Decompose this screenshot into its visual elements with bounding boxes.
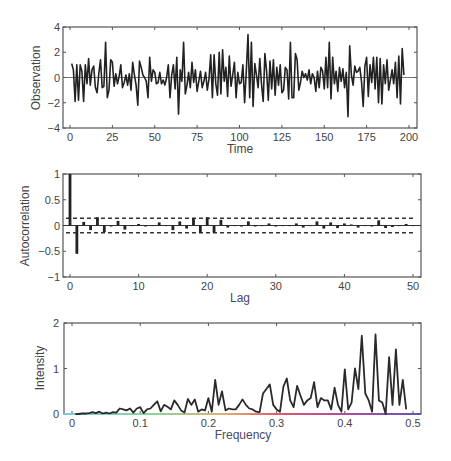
- acf-bar: [364, 226, 367, 227]
- acf-bar: [103, 226, 106, 233]
- x-tick-label: 10: [132, 280, 144, 292]
- x-tick-label: 50: [407, 280, 419, 292]
- periodogram-y-ticks: 012: [53, 317, 421, 420]
- acf-bar: [240, 226, 243, 227]
- acf-bar: [268, 223, 271, 225]
- acf-bar: [384, 226, 387, 229]
- acf-y-axis-label: Autocorrelation: [18, 186, 32, 267]
- acf-bar: [96, 217, 99, 225]
- y-tick-label: 0: [53, 408, 59, 420]
- x-tick-label: 75: [191, 131, 203, 143]
- y-tick-label: 2: [53, 317, 59, 329]
- y-tick-label: 0.5: [45, 194, 60, 206]
- periodogram-x-axis-label: Frequency: [215, 428, 272, 442]
- acf-bar: [220, 220, 223, 226]
- y-tick-label: 2: [54, 46, 60, 58]
- acf-bar: [165, 226, 168, 227]
- acf-bar: [295, 223, 298, 225]
- acf-bar: [206, 217, 209, 225]
- acf-bar: [329, 222, 332, 225]
- acf-bar: [226, 226, 229, 228]
- x-tick-label: 30: [270, 280, 282, 292]
- acf-bar: [178, 221, 181, 225]
- figure: −4−2024 0255075100125150175200 Time Obse…: [0, 0, 451, 461]
- periodogram-panel: 012 00.10.20.30.40.5 Frequency Intensity: [33, 317, 421, 442]
- acf-bar: [185, 226, 188, 229]
- acf-bar: [69, 174, 72, 226]
- x-tick-label: 40: [338, 280, 350, 292]
- y-tick-label: −4: [47, 122, 60, 134]
- acf-bar: [213, 226, 216, 233]
- y-tick-label: −0.5: [38, 245, 60, 257]
- x-tick-label: 125: [273, 131, 291, 143]
- acf-bar: [391, 226, 394, 228]
- y-tick-label: 1: [54, 168, 60, 180]
- y-tick-label: −2: [47, 97, 60, 109]
- acf-bar: [233, 226, 236, 227]
- y-tick-label: 0: [54, 72, 60, 84]
- periodogram-series-line: [75, 334, 406, 414]
- acf-bar: [322, 226, 325, 229]
- acf-bar: [281, 226, 284, 227]
- y-tick-label: 0: [54, 220, 60, 232]
- acf-bar: [288, 226, 291, 227]
- acf-bar: [370, 226, 373, 227]
- acf-bar: [110, 226, 113, 227]
- x-tick-label: 150: [315, 131, 333, 143]
- x-tick-label: 0.4: [337, 417, 352, 429]
- observation-series-line: [72, 35, 404, 117]
- acf-bar: [123, 226, 126, 230]
- acf-x-axis-label: Lag: [230, 291, 250, 305]
- observation-y-axis-label: Observation: [29, 46, 43, 111]
- acf-bar: [309, 226, 312, 227]
- acf-bar: [316, 221, 319, 225]
- x-tick-label: 0.1: [133, 417, 148, 429]
- frequency-spectrum-baseline: [64, 413, 421, 415]
- acf-bar: [254, 226, 257, 227]
- acf-bar: [192, 218, 195, 225]
- acf-bar: [82, 222, 85, 226]
- acf-bar: [377, 220, 380, 225]
- y-tick-label: 1: [53, 363, 59, 375]
- acf-bar: [357, 226, 360, 228]
- x-tick-label: 25: [106, 131, 118, 143]
- observation-x-axis-label: Time: [227, 142, 254, 156]
- acf-panel: −1−0.500.51 01020304050 Lag Autocorrelat…: [18, 168, 421, 305]
- acf-bar: [172, 226, 175, 231]
- acf-bar: [412, 226, 415, 227]
- x-tick-label: 0: [69, 417, 75, 429]
- acf-bar: [117, 221, 120, 226]
- acf-bar: [199, 226, 202, 233]
- acf-bar: [261, 226, 264, 227]
- acf-bar: [158, 222, 161, 225]
- x-tick-label: 0: [67, 280, 73, 292]
- acf-bar: [405, 224, 408, 226]
- acf-bar: [75, 226, 78, 254]
- observation-panel: −4−2024 0255075100125150175200 Time Obse…: [29, 21, 418, 156]
- acf-bar: [151, 226, 154, 227]
- acf-bar: [302, 226, 305, 228]
- observation-x-ticks: 0255075100125150175200: [67, 27, 418, 143]
- x-tick-label: 0.5: [405, 417, 420, 429]
- acf-bar: [130, 226, 133, 227]
- acf-bar: [343, 223, 346, 225]
- x-tick-label: 0: [67, 131, 73, 143]
- x-tick-label: 200: [400, 131, 418, 143]
- acf-bar: [144, 226, 147, 227]
- periodogram-y-axis-label: Intensity: [33, 346, 47, 391]
- acf-bar: [336, 226, 339, 229]
- acf-bar: [350, 224, 353, 225]
- acf-bars: [69, 174, 415, 254]
- acf-bar: [89, 226, 92, 231]
- acf-bar: [398, 226, 401, 227]
- acf-bar: [274, 226, 277, 227]
- x-tick-label: 20: [201, 280, 213, 292]
- x-tick-label: 175: [357, 131, 375, 143]
- x-tick-label: 50: [149, 131, 161, 143]
- acf-bar: [247, 221, 250, 225]
- y-tick-label: 4: [54, 21, 60, 33]
- acf-bar: [137, 224, 140, 226]
- y-tick-label: −1: [47, 271, 60, 283]
